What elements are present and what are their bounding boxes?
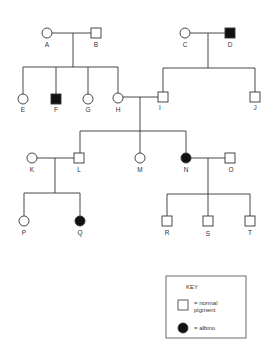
individual-E-female-unaffected — [18, 94, 28, 104]
label-T: T — [248, 229, 252, 236]
label-I: I — [159, 104, 161, 111]
individual-L-male-unaffected — [74, 153, 84, 163]
individual-R-male-unaffected — [162, 216, 172, 226]
key-normal-line1: = normal — [194, 300, 218, 306]
label-P: P — [22, 229, 26, 236]
individual-C-female-unaffected — [180, 28, 190, 38]
label-A: A — [45, 41, 50, 48]
key-normal-line2: pigment — [194, 307, 216, 313]
individual-G-female-unaffected — [83, 94, 93, 104]
label-K: K — [30, 166, 35, 173]
individual-F-male-affected — [51, 94, 61, 104]
label-E: E — [21, 106, 26, 113]
individual-A-female-unaffected — [42, 28, 52, 38]
individual-I-male-unaffected — [158, 92, 168, 102]
label-H: H — [116, 106, 121, 113]
individual-H-female-unaffected — [113, 93, 123, 103]
individual-M-female-unaffected — [135, 153, 145, 163]
label-J: J — [253, 104, 256, 111]
label-B: B — [94, 41, 98, 48]
pedigree-diagram: A B C D E F G H I J K L M N O P Q R S T … — [0, 0, 273, 354]
label-Q: Q — [77, 229, 82, 237]
connector-lines — [23, 33, 255, 216]
individual-T-male-unaffected — [245, 216, 255, 226]
label-N: N — [184, 166, 189, 173]
label-C: C — [183, 41, 188, 48]
key-square-icon — [178, 300, 188, 310]
label-G: G — [85, 106, 90, 113]
label-S: S — [206, 230, 211, 237]
label-F: F — [54, 106, 58, 113]
key-albino: = albino — [194, 325, 216, 331]
individual-B-male-unaffected — [91, 28, 101, 38]
label-M: M — [137, 166, 142, 173]
individual-N-female-affected — [181, 153, 191, 163]
label-D: D — [228, 41, 233, 48]
individual-Q-female-affected — [75, 216, 85, 226]
individual-K-female-unaffected — [27, 153, 37, 163]
individual-J-male-unaffected — [250, 92, 260, 102]
legend-key: KEY = normal pigment = albino — [166, 276, 246, 338]
individual-O-male-unaffected — [225, 153, 235, 163]
label-L: L — [77, 166, 81, 173]
key-filled-circle-icon — [178, 323, 188, 333]
individual-P-female-unaffected — [19, 216, 29, 226]
label-O: O — [228, 166, 233, 173]
label-R: R — [165, 229, 170, 236]
key-title: KEY — [186, 284, 198, 290]
individual-S-male-unaffected — [203, 216, 213, 226]
individual-D-male-affected — [225, 28, 235, 38]
